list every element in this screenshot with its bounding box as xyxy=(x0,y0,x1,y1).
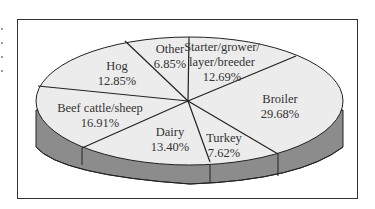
label-turkey: Turkey7.62% xyxy=(206,131,242,161)
label-broiler: Broiler29.68% xyxy=(261,92,300,122)
label-beef: Beef cattle/sheep16.91% xyxy=(57,101,143,131)
label-starter: Starter/grower/layer/breeder12.69% xyxy=(184,40,260,85)
label-dairy: Dairy13.40% xyxy=(151,125,190,155)
label-hog: Hog12.85% xyxy=(98,59,137,89)
label-other: Other6.85% xyxy=(154,42,186,72)
